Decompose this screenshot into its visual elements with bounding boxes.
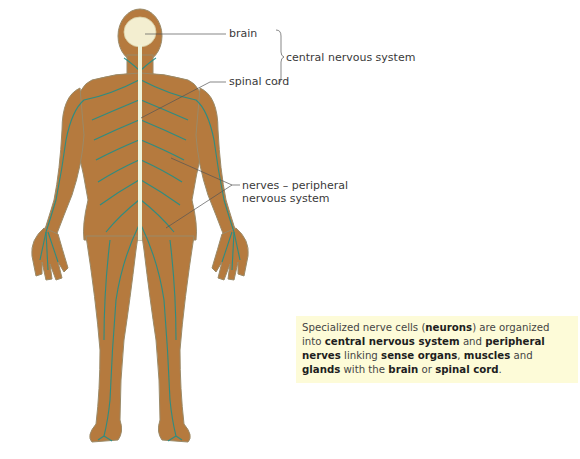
caption-keyword: sense organs <box>381 350 457 361</box>
caption-text: . <box>499 364 502 375</box>
caption-keyword: spinal cord <box>435 364 498 375</box>
caption-text: Specialized nerve cells ( <box>302 322 425 333</box>
caption-keyword: muscles <box>464 350 510 361</box>
caption-box: Specialized nerve cells (neurons) are or… <box>296 316 578 383</box>
label-brain: brain <box>229 27 257 40</box>
brain-shape <box>124 17 156 47</box>
caption-keyword: neurons <box>425 322 472 333</box>
spinal-cord-shape <box>138 45 142 240</box>
label-spinal-cord: spinal cord <box>229 75 289 88</box>
caption-text: linking <box>341 350 381 361</box>
caption-text: and <box>510 350 532 361</box>
label-nerves-line2: nervous system <box>242 192 329 205</box>
caption-text: and <box>460 336 486 347</box>
label-nerves-line1: nerves – peripheral <box>242 179 348 192</box>
human-body-figure <box>0 0 580 459</box>
caption-keyword: central nervous system <box>325 336 460 347</box>
caption-text: with the <box>340 364 388 375</box>
caption-text: or <box>418 364 435 375</box>
caption-keyword: brain <box>388 364 418 375</box>
caption-keyword: glands <box>302 364 340 375</box>
label-central-nervous-system: central nervous system <box>286 51 415 64</box>
